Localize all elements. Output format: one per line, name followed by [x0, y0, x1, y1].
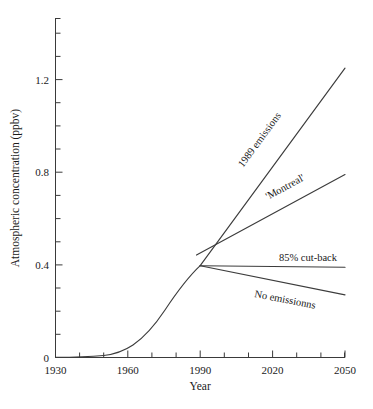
curve-1989-emissions [200, 68, 345, 266]
curve-montreal [197, 175, 346, 256]
x-tick-labels: 1930 1960 1990 2020 2050 [45, 364, 357, 376]
series-label-montreal: 'Montreal' [264, 172, 306, 202]
chart-figure: 0 0.4 0.8 1.2 1930 1960 1990 2020 2050 Y… [0, 0, 373, 409]
x-tick-label-1960: 1960 [117, 364, 140, 376]
y-tick-labels: 0 0.4 0.8 1.2 [35, 74, 49, 364]
x-tick-label-1990: 1990 [189, 364, 212, 376]
x-tick-label-2050: 2050 [334, 364, 357, 376]
y-tick-label-0p4: 0.4 [35, 259, 49, 271]
y-tick-label-1p2: 1.2 [35, 74, 49, 86]
x-tick-label-1930: 1930 [45, 364, 68, 376]
y-tick-label-0: 0 [44, 352, 50, 364]
y-tick-label-0p8: 0.8 [35, 166, 49, 178]
curve-historical [56, 266, 201, 358]
series-label-no-emissions: No emissionns [254, 288, 317, 310]
x-tick-label-2020: 2020 [262, 364, 285, 376]
series-label-1989-emissions: 1989 emissions [236, 110, 283, 169]
x-axis-title: Year [190, 380, 211, 392]
curve-85-percent-cutback [200, 266, 345, 268]
line-chart-canvas: 0 0.4 0.8 1.2 1930 1960 1990 2020 2050 Y… [0, 0, 373, 409]
y-axis-minor-ticks [56, 33, 61, 334]
y-axis-title: Atmospheric concentration (ppbv) [9, 109, 22, 268]
series-label-85-percent-cutback: 85% cut-back [279, 252, 338, 263]
